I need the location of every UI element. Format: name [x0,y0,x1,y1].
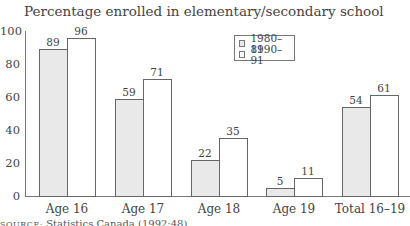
legend-swatch-gray-icon [239,40,245,47]
y-tick-label: 80 [0,58,20,70]
bar-value-label: 59 [115,87,143,98]
y-tick-label: 40 [0,124,20,136]
bar [370,95,399,197]
bar-value-label: 35 [219,126,247,137]
y-tick-label: 60 [0,91,20,103]
y-tick-label: 0 [0,190,20,202]
legend-swatch-white-icon [239,51,245,58]
x-category-label: Age 19 [254,203,334,216]
legend: 1980–81 1990–91 [234,35,295,61]
bar [294,178,323,197]
x-category-label: Age 18 [179,203,259,216]
bar [191,160,220,197]
bar [39,49,68,197]
bar-value-label: 71 [143,67,171,78]
source-note: SOURCE: Statistics Canada (1992:48) [0,218,187,226]
bar-value-label: 61 [370,83,398,94]
bar-value-label: 5 [266,176,294,187]
bar-value-label: 96 [67,26,95,37]
bar-value-label: 54 [342,95,370,106]
bar [115,99,144,197]
bar [67,38,96,197]
legend-label: 1990–91 [250,44,290,66]
x-category-label: Age 16 [27,203,107,216]
legend-item-1990-91: 1990–91 [239,49,290,60]
y-axis-line [25,31,26,197]
x-category-label: Total 16–19 [330,203,410,216]
chart-title: Percentage enrolled in elementary/second… [24,3,384,19]
bar [219,138,248,197]
bar [342,107,371,197]
bar-value-label: 22 [191,148,219,159]
bar-value-label: 11 [294,166,322,177]
source-prefix: SOURCE: [0,220,43,226]
source-text: Statistics Canada (1992:48) [43,218,187,226]
bar [266,188,295,197]
y-tick-label: 20 [0,157,20,169]
x-category-label: Age 17 [103,203,183,216]
bar [143,79,172,197]
bar-value-label: 89 [39,37,67,48]
y-tick-label: 100 [0,25,20,37]
